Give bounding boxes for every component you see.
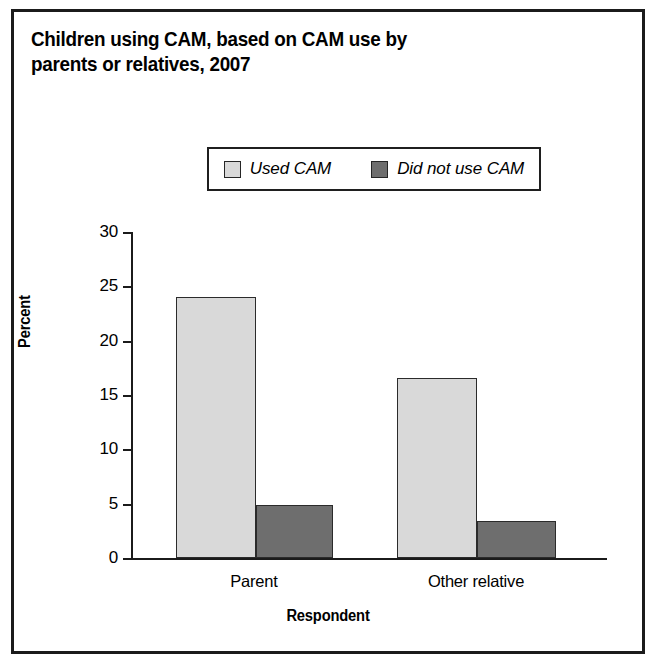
plot-area: 30 25 20 15 10 5 0 Parent Other relative: [132, 232, 606, 558]
bar-parent-did-not-use-cam: [256, 505, 333, 558]
x-tick-label-other-relative: Other relative: [428, 572, 524, 591]
y-tick-label-5: 5: [109, 494, 118, 514]
legend-label-used-cam: Used CAM: [250, 159, 331, 179]
chart-legend: Used CAM Did not use CAM: [207, 147, 541, 191]
x-axis-line: [131, 558, 607, 560]
chart-title: Children using CAM, based on CAM use by …: [31, 26, 445, 76]
x-axis-title: Respondent: [26, 607, 630, 625]
legend-swatch-used-cam: [224, 161, 241, 178]
y-tick-label-20: 20: [99, 331, 118, 351]
bar-other-relative-did-not-use-cam: [477, 521, 556, 558]
y-tick-mark-10: [123, 449, 132, 451]
y-tick-label-30: 30: [99, 222, 118, 242]
y-tick-label-25: 25: [99, 276, 118, 296]
y-tick-mark-30: [123, 232, 132, 234]
bar-parent-used-cam: [176, 297, 256, 558]
legend-item-did-not-use-cam: Did not use CAM: [371, 159, 524, 179]
legend-swatch-did-not-use-cam: [371, 161, 388, 178]
y-tick-label-0: 0: [109, 548, 118, 568]
x-tick-label-parent: Parent: [230, 572, 277, 591]
y-tick-label-10: 10: [99, 439, 118, 459]
y-axis-title: Percent: [16, 295, 34, 348]
y-tick-mark-15: [123, 395, 132, 397]
y-tick-mark-25: [123, 286, 132, 288]
bar-other-relative-used-cam: [397, 378, 477, 558]
y-tick-mark-5: [123, 504, 132, 506]
y-tick-mark-20: [123, 341, 132, 343]
legend-item-used-cam: Used CAM: [224, 159, 331, 179]
y-tick-mark-0: [123, 558, 132, 560]
y-tick-label-15: 15: [99, 385, 118, 405]
legend-label-did-not-use-cam: Did not use CAM: [397, 159, 524, 179]
